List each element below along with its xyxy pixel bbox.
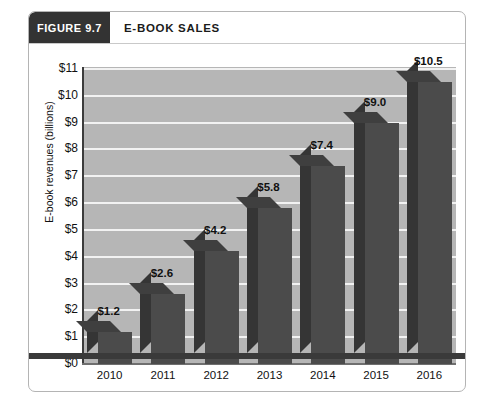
bar-value-label: $5.8 xyxy=(257,181,279,193)
y-axis-tick-label: $8 xyxy=(34,141,78,155)
bar-front-face xyxy=(418,82,452,364)
bar-side-face xyxy=(354,101,365,353)
bar-side-face xyxy=(300,144,311,353)
y-axis-tick-label: $4 xyxy=(34,249,78,263)
y-axis-tick-label: $9 xyxy=(34,115,78,129)
y-axis-tick-label: $10 xyxy=(34,88,78,102)
bar-value-label: $9.0 xyxy=(364,96,386,108)
figure-header: FIGURE 9.7 E-BOOK SALES xyxy=(29,12,465,44)
figure-title: E-BOOK SALES xyxy=(124,12,220,43)
y-axis-tick-label: $11 xyxy=(34,61,78,75)
chart-region: E-book revenues (billions) $0$1$2$3$4$5$… xyxy=(29,44,466,392)
y-axis-tick-label: $2 xyxy=(34,302,78,316)
y-axis-tick-label: $3 xyxy=(34,276,78,290)
bottom-rule xyxy=(29,353,466,359)
gridline xyxy=(83,122,456,124)
bar-value-label: $1.2 xyxy=(97,305,119,317)
bar-front-face xyxy=(311,166,345,364)
x-axis-tick-label: 2011 xyxy=(151,369,176,381)
bar-front-face xyxy=(365,123,399,364)
gridline xyxy=(83,95,456,97)
gridline xyxy=(83,68,456,70)
x-axis-tick-label: 2012 xyxy=(203,369,229,381)
x-axis-tick-label: 2015 xyxy=(363,369,389,381)
bar-front-face xyxy=(258,208,292,364)
bar-front-face xyxy=(205,251,239,364)
x-axis-tick-label: 2010 xyxy=(97,369,123,381)
figure-number-badge: FIGURE 9.7 xyxy=(29,12,110,43)
bar-value-label: $2.6 xyxy=(151,267,173,279)
x-axis-tick-label: 2013 xyxy=(257,369,283,381)
bar-value-label: $4.2 xyxy=(204,224,226,236)
figure-card: FIGURE 9.7 E-BOOK SALES E-book revenues … xyxy=(28,11,466,392)
bar-side-face xyxy=(247,186,258,353)
bar-side-face xyxy=(407,60,418,353)
y-axis-tick-label: $5 xyxy=(34,222,78,236)
y-axis-tick-label: $1 xyxy=(34,329,78,343)
y-axis-tick-labels: $0$1$2$3$4$5$6$7$8$9$10$11 xyxy=(29,44,78,374)
bar-value-label: $7.4 xyxy=(311,139,333,151)
y-axis-tick-label: $7 xyxy=(34,168,78,182)
x-axis-tick-label: 2014 xyxy=(310,369,336,381)
bar-value-label: $10.5 xyxy=(414,55,443,67)
x-axis-tick-label: 2016 xyxy=(417,369,443,381)
gridline xyxy=(83,175,456,177)
gridline xyxy=(83,148,456,150)
bar-front-face xyxy=(98,332,132,364)
y-axis-tick-label: $6 xyxy=(34,195,78,209)
